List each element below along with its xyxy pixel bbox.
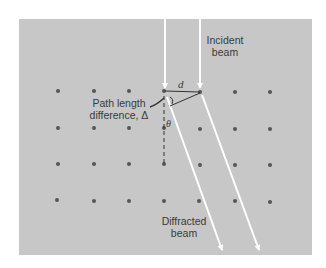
diffracted-beam-label: Diffracted beam [158, 215, 210, 239]
angle-arc [170, 97, 173, 104]
theta-label: θ [166, 118, 171, 129]
diffracted-label-line1: Diffracted [158, 215, 210, 227]
incident-label-line2: beam [200, 46, 250, 58]
label-pointer [150, 98, 164, 107]
path-difference-line [170, 93, 200, 106]
path-length-label: Path length difference, Δ [86, 97, 152, 121]
path-label-line1: Path length [86, 97, 152, 109]
path-label-line2: difference, Δ [86, 109, 152, 121]
incident-beam-label: Incident beam [200, 34, 250, 58]
spacing-d-label: d [178, 78, 184, 90]
incident-beams [165, 0, 200, 88]
spacing-line [165, 91, 200, 92]
diffracted-label-line2: beam [158, 227, 210, 239]
incident-label-line1: Incident [200, 34, 250, 46]
